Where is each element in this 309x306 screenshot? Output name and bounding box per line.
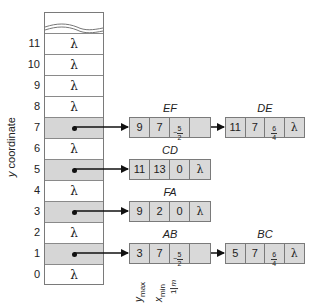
edge-node-fa: 9 2 0 λ xyxy=(129,201,211,222)
node-label-fa: FA xyxy=(129,186,211,198)
inv-slope-cell: −52 xyxy=(170,244,190,263)
numerator: 5 xyxy=(178,251,182,258)
node-label-ab: AB xyxy=(129,228,211,240)
numerator: 6 xyxy=(272,251,276,258)
field-label-inv-slope: 1m xyxy=(167,283,181,291)
next-null-cell: λ xyxy=(285,118,304,137)
inv-slope-cell: 0 xyxy=(170,202,190,221)
inv-slope-cell: 64 xyxy=(265,118,285,137)
ymax-sub: max xyxy=(138,282,147,297)
edge-node-ab: 3 7 −52 xyxy=(129,243,211,264)
ymax-cell: 5 xyxy=(226,244,246,263)
node-label-cd: CD xyxy=(129,144,211,156)
node-label-ef: EF xyxy=(129,102,211,114)
xmin-cell: 2 xyxy=(150,202,170,221)
ymax-cell: 11 xyxy=(226,118,246,137)
xmin-cell: 7 xyxy=(150,244,170,263)
ymax-cell: 3 xyxy=(130,244,150,263)
node-label-de: DE xyxy=(225,102,305,114)
xmin-var: x xyxy=(153,297,164,302)
xmin-cell: 13 xyxy=(150,160,170,179)
inv-slope-cell: −52 xyxy=(170,118,190,137)
ymax-cell: 9 xyxy=(130,202,150,221)
next-null-cell: λ xyxy=(190,160,210,179)
inv-slope-cell: 0 xyxy=(170,160,190,179)
field-label-xmin: xmin xyxy=(153,284,167,302)
denominator: 2 xyxy=(178,134,182,141)
ymax-cell: 11 xyxy=(130,160,150,179)
numerator: 5 xyxy=(178,125,182,132)
fraction: 64 xyxy=(271,251,277,267)
xmin-sub: min xyxy=(158,284,167,297)
ymax-cell: 9 xyxy=(130,118,150,137)
fraction: 52 xyxy=(177,251,183,267)
xmin-cell: 7 xyxy=(246,244,266,263)
inv-num: 1 xyxy=(170,290,178,294)
field-label-ymax: ymax xyxy=(133,282,147,302)
edge-node-cd: 11 13 0 λ xyxy=(129,159,211,180)
edge-node-ef: 9 7 −52 xyxy=(129,117,211,138)
next-null-cell: λ xyxy=(285,244,304,263)
inv-den: m xyxy=(170,280,178,287)
numerator: 6 xyxy=(272,125,276,132)
denominator: 4 xyxy=(272,260,276,267)
node-label-bc: BC xyxy=(225,228,305,240)
denominator: 2 xyxy=(178,260,182,267)
edge-node-de: 11 7 64 λ xyxy=(225,117,305,138)
sign: − xyxy=(173,123,177,142)
edge-node-bc: 5 7 64 λ xyxy=(225,243,305,264)
inv-slope-fraction: 1m xyxy=(170,280,178,294)
sign: − xyxy=(173,249,177,268)
ymax-var: y xyxy=(133,297,144,302)
fraction: 52 xyxy=(177,125,183,141)
next-null-cell: λ xyxy=(190,202,210,221)
next-pointer-cell xyxy=(190,244,210,263)
xmin-cell: 7 xyxy=(246,118,266,137)
denominator: 4 xyxy=(272,134,276,141)
next-pointer-cell xyxy=(190,118,210,137)
fraction: 64 xyxy=(271,125,277,141)
xmin-cell: 7 xyxy=(150,118,170,137)
inv-slope-cell: 64 xyxy=(265,244,285,263)
